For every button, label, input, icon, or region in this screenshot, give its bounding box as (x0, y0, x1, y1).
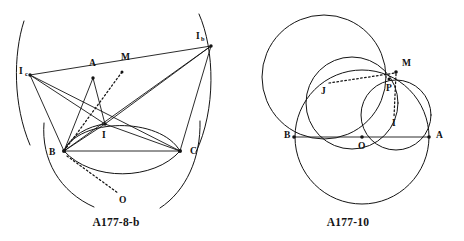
vertex-b (62, 149, 66, 153)
circle-upper-left (262, 15, 386, 139)
vertex-a (427, 135, 431, 139)
point-label-m: M (121, 52, 130, 62)
vertex-group-right (292, 70, 431, 139)
dashed-group-left (64, 72, 122, 193)
vertex-m (121, 71, 124, 74)
figure-a177-8-b: I c I b A M I B C O (0, 0, 232, 241)
vertex-c (178, 149, 182, 153)
vertex-ib (209, 44, 212, 47)
caption-a177-8-b: A177-8-b (0, 216, 232, 228)
caption-a177-10: A177-10 (232, 216, 464, 228)
point-label-b: B (284, 130, 291, 140)
point-label-ib-subscript: b (201, 35, 205, 42)
segment-b-o-dashed (67, 156, 118, 193)
vertex-b (292, 135, 296, 139)
arc-circumcircle-left (16, 21, 30, 145)
vertex-i (103, 122, 106, 125)
figure-right-canvas: M P J I B O A (232, 0, 464, 214)
circle-group-right (262, 15, 431, 204)
segment-ib-c (180, 46, 211, 151)
point-label-i: I (102, 130, 106, 140)
arc-through-C-lower (160, 121, 200, 208)
point-label-ic: I (19, 66, 23, 76)
point-label-i: I (392, 118, 396, 128)
segment-a-b (64, 78, 93, 151)
point-label-ic-subscript: c (25, 70, 28, 77)
point-label-a: A (89, 58, 96, 68)
point-label-j: J (321, 86, 326, 96)
vertex-o (360, 135, 364, 139)
point-label-c: C (190, 146, 197, 156)
figure-left-canvas: I c I b A M I B C O (0, 0, 232, 214)
arc-through-B-lower (44, 123, 94, 207)
label-group-left: I c I b A M I B C O (19, 31, 205, 205)
point-label-o: O (358, 141, 365, 151)
figure-a177-10: M P J I B O A (232, 0, 464, 241)
point-label-m: M (402, 58, 411, 68)
point-label-a: A (436, 130, 443, 140)
vertex-a (91, 76, 94, 79)
vertex-m (394, 70, 398, 74)
segment-b-i (64, 124, 105, 151)
figure-page: I c I b A M I B C O (0, 0, 464, 241)
arc-group-left (16, 14, 211, 208)
point-label-ib: I (196, 31, 200, 41)
vertex-ic (28, 73, 31, 76)
point-label-o: O (119, 195, 126, 205)
vertex-p (388, 78, 391, 81)
point-label-b: B (49, 147, 56, 157)
point-label-p: P (386, 83, 392, 93)
arc-bc-lower (64, 151, 180, 174)
